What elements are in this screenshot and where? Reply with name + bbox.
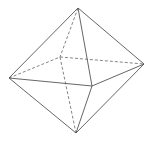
hidden-edge-top-back — [60, 8, 78, 57]
visible-edges — [9, 8, 144, 133]
octahedron-diagram — [0, 0, 156, 143]
hidden-edge-back-right — [60, 57, 144, 64]
hidden-edges — [9, 8, 144, 133]
visible-edge-front-right — [92, 64, 144, 86]
visible-edge-left-front — [9, 78, 92, 86]
visible-edge-right-bottom — [76, 64, 144, 133]
visible-edge-top-left — [9, 8, 78, 78]
hidden-edge-left-back — [9, 57, 60, 78]
visible-edge-top-front — [78, 8, 92, 86]
visible-edge-top-right — [78, 8, 144, 64]
visible-edge-left-bottom — [9, 78, 76, 133]
visible-edge-front-bottom — [76, 86, 92, 133]
